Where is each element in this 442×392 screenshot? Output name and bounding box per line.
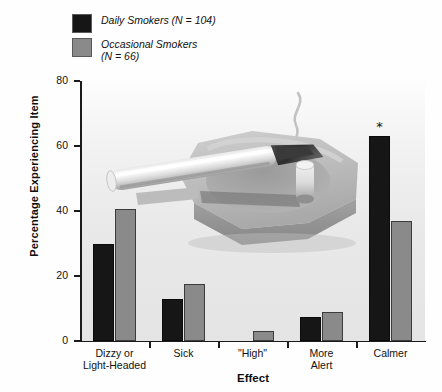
y-tick-20: [74, 275, 80, 277]
x-axis-line: [80, 341, 426, 343]
ashtray-cigarette-photo: [102, 87, 392, 267]
y-tick-label-60: 60: [42, 139, 68, 151]
significance-marker-4: *: [369, 122, 390, 132]
legend-item-daily-smokers: Daily Smokers (N = 104): [72, 14, 216, 33]
bar-daily-3: [300, 317, 321, 341]
y-tick-label-80: 80: [42, 74, 68, 86]
category-label-0: Dizzy or Light-Headed: [80, 347, 149, 371]
bar-daily-4: [369, 136, 390, 341]
bar-occasional-0: [115, 209, 136, 341]
bar-daily-1: [162, 299, 183, 341]
y-tick-label-40: 40: [42, 204, 68, 216]
plot-clip: *: [80, 81, 425, 341]
category-label-3: More Alert: [287, 347, 356, 371]
figure-canvas: Daily Smokers (N = 104) Occasional Smoke…: [0, 0, 442, 392]
legend-label-occasional-smokers: Occasional Smokers (N = 66): [101, 38, 197, 62]
bar-occasional-1: [184, 284, 205, 341]
y-tick-60: [74, 145, 80, 147]
plot-area: *: [80, 81, 425, 341]
y-tick-label-20: 20: [42, 269, 68, 281]
category-label-2: "High": [218, 347, 287, 359]
legend-label-daily-smokers: Daily Smokers (N = 104): [101, 14, 216, 27]
y-axis-line: [80, 81, 82, 342]
chart-legend: Daily Smokers (N = 104) Occasional Smoke…: [72, 14, 216, 67]
x-axis-title: Effect: [80, 372, 426, 384]
category-label-1: Sick: [149, 347, 218, 359]
y-tick-0: [74, 340, 80, 342]
y-axis-title: Percentage Experiencing Item: [28, 56, 40, 296]
bar-occasional-3: [322, 312, 343, 341]
category-label-4: Calmer: [356, 347, 425, 359]
y-tick-label-0: 0: [42, 334, 68, 346]
bar-daily-0: [93, 244, 114, 342]
y-tick-80: [74, 80, 80, 82]
bar-occasional-4: [391, 221, 412, 341]
y-axis-ticks: 020406080: [0, 0, 80, 392]
y-tick-40: [74, 210, 80, 212]
legend-item-occasional-smokers: Occasional Smokers (N = 66): [72, 38, 216, 62]
